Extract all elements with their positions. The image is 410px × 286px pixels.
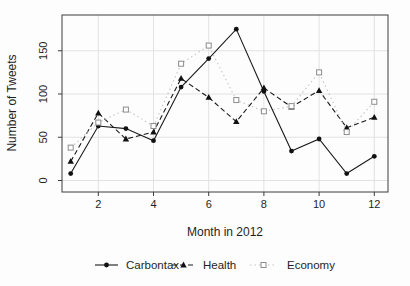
legend-label: Carbontax (126, 259, 179, 271)
legend-item-health: Health (172, 259, 236, 271)
data-point-marker (372, 154, 377, 159)
y-tick-label: 50 (37, 131, 49, 143)
series-line (71, 78, 375, 161)
series-health (68, 75, 378, 164)
data-point-marker (344, 171, 349, 176)
x-axis-label: Month in 2012 (187, 225, 263, 239)
data-point-marker (123, 107, 128, 112)
data-point-marker (371, 114, 377, 120)
data-point-marker (289, 149, 294, 154)
x-tick-label: 12 (368, 198, 380, 210)
data-point-marker (179, 85, 184, 90)
data-point-marker (317, 70, 322, 75)
x-tick-label: 8 (261, 198, 267, 210)
data-point-marker (206, 56, 211, 61)
series-carbontax (68, 27, 376, 176)
data-point-marker (261, 109, 266, 114)
x-tick-label: 4 (150, 198, 156, 210)
data-point-marker (178, 75, 184, 81)
y-axis-label: Number of Tweets (5, 54, 19, 151)
data-point-marker (344, 130, 349, 135)
tweets-line-chart: 24681012050100150 Month in 2012 Number o… (0, 0, 410, 286)
legend-label: Health (203, 259, 236, 271)
data-point-marker (316, 87, 322, 93)
data-point-marker (372, 99, 377, 104)
y-tick-label: 100 (37, 85, 49, 103)
chart-canvas: 24681012050100150 Month in 2012 Number o… (0, 0, 410, 286)
data-point-marker (234, 98, 239, 103)
data-point-marker (95, 110, 101, 116)
series-line (71, 46, 375, 148)
data-point-marker (96, 120, 101, 125)
data-point-marker (68, 158, 74, 164)
legend-label: Economy (287, 259, 335, 271)
data-point-marker (104, 263, 109, 268)
x-tick-label: 6 (206, 198, 212, 210)
data-point-marker (206, 43, 211, 48)
chart-legend: CarbontaxHealthEconomy (95, 259, 335, 271)
data-point-marker (124, 126, 129, 131)
x-tick-label: 10 (313, 198, 325, 210)
data-series (68, 27, 378, 176)
x-tick-label: 2 (95, 198, 101, 210)
data-point-marker (151, 138, 156, 143)
data-point-marker (289, 104, 294, 109)
data-point-marker (151, 124, 156, 129)
legend-item-carbontax: Carbontax (95, 259, 179, 271)
y-tick-label: 150 (37, 42, 49, 60)
series-economy (68, 43, 377, 150)
data-point-marker (68, 145, 73, 150)
data-point-marker (234, 27, 239, 32)
y-tick-label: 0 (37, 177, 49, 183)
legend-item-economy: Economy (250, 259, 335, 271)
data-point-marker (68, 171, 73, 176)
data-point-marker (317, 137, 322, 142)
data-point-marker (261, 263, 266, 268)
data-point-marker (150, 129, 156, 135)
data-point-marker (179, 61, 184, 66)
data-point-marker (206, 94, 212, 100)
